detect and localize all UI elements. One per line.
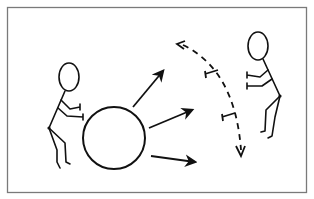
diagram-canvas — [0, 0, 314, 199]
diagram-frame — [8, 8, 307, 193]
